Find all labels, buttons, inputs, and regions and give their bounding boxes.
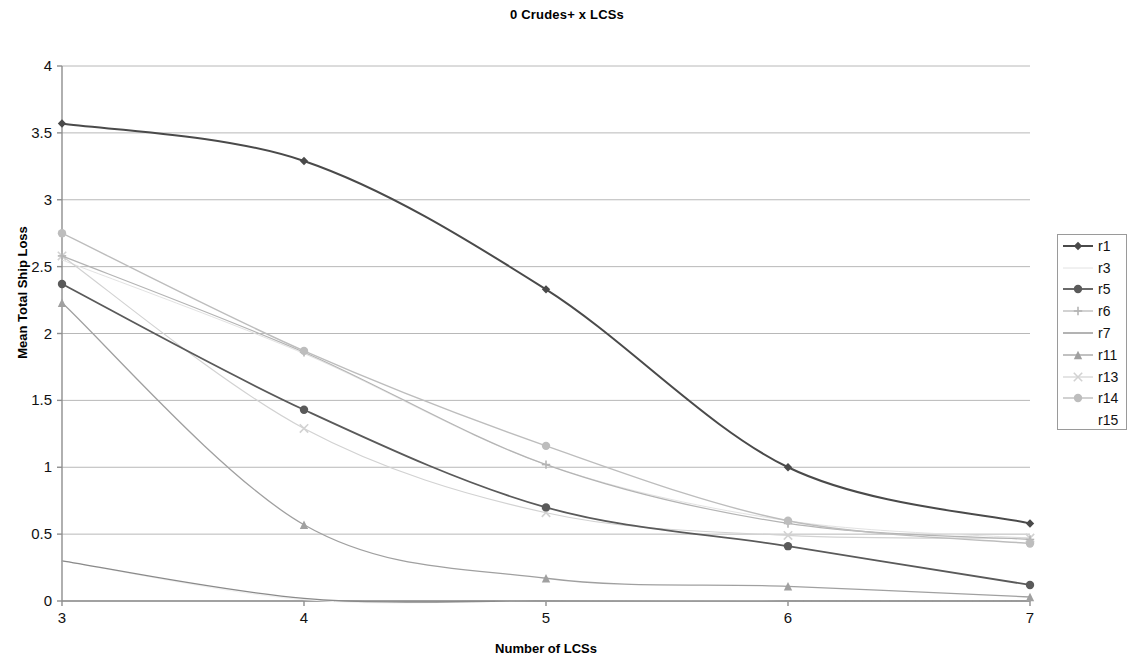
y-tick-label: 2 [8,325,52,342]
chart-container: 0 Crudes+ x LCSs Mean Total Ship Loss Nu… [0,0,1134,663]
series-line [62,284,1030,585]
data-point-marker [784,517,792,525]
chart-legend: r1r3r5r6r7r11r13r14r15 [1057,234,1127,430]
legend-label: r14 [1096,391,1118,405]
legend-label: r1 [1096,239,1110,253]
series-line [62,256,1030,540]
data-point-marker [300,521,308,529]
plot-area [0,0,1134,663]
data-point-marker [542,503,550,511]
legend-swatch-r14 [1060,390,1096,406]
legend-label: r6 [1096,304,1110,318]
series-line [62,260,1030,538]
data-point-marker [300,347,308,355]
x-tick-label: 6 [768,609,808,626]
legend-item-r6[interactable]: r6 [1058,300,1126,322]
data-point-marker [1074,307,1082,315]
y-tick-label: 3.5 [8,124,52,141]
legend-swatch-r7 [1060,325,1096,341]
data-point-marker [1074,242,1082,250]
legend-label: r15 [1096,413,1118,427]
series-line [62,233,1030,543]
data-point-marker [784,463,792,471]
data-point-marker [58,280,66,288]
legend-swatch-r6 [1060,303,1096,319]
data-point-marker [784,542,792,550]
legend-item-r13[interactable]: r13 [1058,366,1126,388]
x-tick-label: 3 [42,609,82,626]
legend-swatch-r11 [1060,347,1096,363]
x-tick-label: 5 [526,609,566,626]
data-point-marker [1026,581,1034,589]
y-tick-label: 2.5 [8,258,52,275]
y-tick-label: 0 [8,592,52,609]
legend-item-r5[interactable]: r5 [1058,279,1126,301]
data-point-marker [58,299,66,307]
data-point-marker [1074,285,1082,293]
data-point-marker [300,157,308,165]
legend-swatch-r15 [1060,412,1096,428]
legend-item-r15[interactable]: r15 [1058,409,1126,431]
x-tick-label: 7 [1010,609,1050,626]
data-point-marker [300,406,308,414]
y-tick-label: 1.5 [8,391,52,408]
data-point-marker [1026,539,1034,547]
series-r3 [62,260,1030,538]
gridlines [62,66,1030,601]
legend-label: r13 [1096,370,1118,384]
legend-label: r3 [1096,261,1110,275]
data-point-marker [58,229,66,237]
data-point-marker [1074,394,1082,402]
legend-item-r11[interactable]: r11 [1058,344,1126,366]
legend-item-r1[interactable]: r1 [1058,235,1126,257]
y-tick-label: 3 [8,191,52,208]
legend-swatch-r13 [1060,369,1096,385]
series-line [62,256,1030,538]
legend-item-r7[interactable]: r7 [1058,322,1126,344]
data-point-marker [542,442,550,450]
data-point-marker [1026,519,1034,527]
y-tick-label: 0.5 [8,525,52,542]
axes [57,66,1030,606]
y-tick-label: 4 [8,57,52,74]
data-point-marker [58,119,66,127]
legend-label: r5 [1096,282,1110,296]
legend-item-r3[interactable]: r3 [1058,257,1126,279]
legend-label: r7 [1096,326,1110,340]
legend-swatch-r1 [1060,238,1096,254]
legend-label: r11 [1096,348,1117,362]
series-r5 [58,280,1034,589]
legend-swatch-r5 [1060,281,1096,297]
data-series-layer [58,119,1034,603]
data-point-marker [300,424,308,432]
x-tick-label: 4 [284,609,324,626]
y-tick-label: 1 [8,458,52,475]
legend-swatch-r3 [1060,260,1096,276]
legend-item-r14[interactable]: r14 [1058,388,1126,410]
